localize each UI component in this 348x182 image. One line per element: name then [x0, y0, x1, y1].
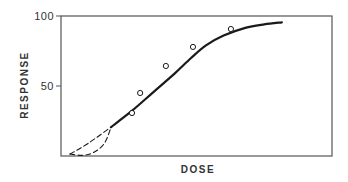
- data-points: [129, 26, 233, 115]
- data-point-marker: [163, 63, 168, 68]
- x-axis-label: DOSE: [181, 164, 215, 175]
- low-dose-extrapolation-linear-line: [70, 127, 111, 154]
- dose-response-chart: 100 50 RESPONSE DOSE: [0, 0, 348, 182]
- y-axis: 100 50 RESPONSE: [19, 10, 61, 119]
- y-tick-label-50: 50: [41, 80, 54, 92]
- data-point-marker: [138, 90, 143, 95]
- data-point-marker: [228, 26, 233, 31]
- plot-frame: [61, 16, 332, 156]
- y-tick-label-100: 100: [34, 10, 54, 22]
- fitted-response-curve-line: [111, 22, 282, 127]
- y-axis-label: RESPONSE: [19, 51, 30, 119]
- series-layer: [70, 22, 282, 155]
- data-point-marker: [129, 110, 134, 115]
- data-point-marker: [190, 44, 195, 49]
